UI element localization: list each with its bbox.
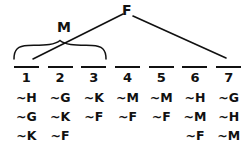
table-cell: ~M <box>183 107 206 126</box>
column-rule <box>48 66 73 68</box>
table-cell: ~F <box>152 107 171 126</box>
column-rule <box>115 66 140 68</box>
table-cell: ~K <box>84 88 104 107</box>
table-cell: ~K <box>50 107 70 126</box>
column-number: 6 <box>190 71 199 85</box>
logic-tree-figure: M F 1 ~H ~G ~K 2 ~G ~K ~F 3 ~K ~F 4 ~M <box>0 0 246 162</box>
column-rule <box>149 66 174 68</box>
column-number: 7 <box>224 71 233 85</box>
column-rule <box>81 66 106 68</box>
column-rule <box>216 66 241 68</box>
table-column-2: 2 ~G ~K ~F <box>44 66 77 162</box>
column-number: 1 <box>22 71 31 85</box>
grouping-brace <box>14 41 106 60</box>
table-column-3: 3 ~K ~F <box>77 66 110 162</box>
column-rule <box>14 66 39 68</box>
table-cell: ~M <box>217 126 240 145</box>
table-cell: ~F <box>118 107 137 126</box>
table-column-7: 7 ~G ~H ~M <box>212 66 245 162</box>
table-cell: ~H <box>16 88 37 107</box>
column-number: 3 <box>89 71 98 85</box>
column-number: 5 <box>157 71 166 85</box>
table-cell: ~K <box>16 126 36 145</box>
table-cell: ~G <box>218 88 239 107</box>
node-label-f: F <box>122 3 132 17</box>
node-label-m: M <box>57 20 71 34</box>
column-rule <box>182 66 207 68</box>
table-cell: ~H <box>184 88 205 107</box>
table-column-4: 4 ~M ~F <box>111 66 144 162</box>
right-branch-line <box>133 16 226 58</box>
truth-table: 1 ~H ~G ~K 2 ~G ~K ~F 3 ~K ~F 4 ~M ~F <box>0 66 246 162</box>
table-cell: ~M <box>116 88 139 107</box>
column-number: 4 <box>123 71 132 85</box>
left-branch-line <box>33 14 123 59</box>
table-column-1: 1 ~H ~G ~K <box>10 66 43 162</box>
table-cell: ~F <box>51 126 70 145</box>
table-cell: ~G <box>16 107 37 126</box>
table-cell: ~F <box>185 126 204 145</box>
column-number: 2 <box>56 71 65 85</box>
table-cell: ~M <box>150 88 173 107</box>
table-cell: ~F <box>84 107 103 126</box>
table-cell: ~H <box>218 107 239 126</box>
table-column-6: 6 ~H ~M ~F <box>179 66 212 162</box>
table-column-5: 5 ~M ~F <box>145 66 178 162</box>
table-cell: ~G <box>50 88 71 107</box>
